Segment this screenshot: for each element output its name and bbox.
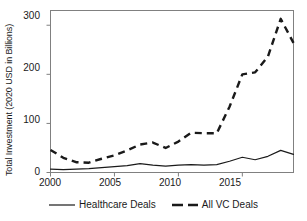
series-line-all-vc-deals xyxy=(51,19,294,163)
legend-label-healthcare-deals: Healthcare Deals xyxy=(79,199,156,210)
legend-swatch-dashed xyxy=(172,201,198,209)
plot-area xyxy=(0,0,307,221)
chart-container: Total Investment (2020 USD in Billions) … xyxy=(0,0,307,221)
series-line-healthcare-deals xyxy=(51,150,294,169)
y-tick-marks xyxy=(47,25,51,172)
legend-entry-healthcare-deals: Healthcare Deals xyxy=(49,199,156,210)
plot-frame xyxy=(51,11,294,173)
chart-legend: Healthcare Deals All VC Deals xyxy=(0,199,307,210)
legend-label-all-vc-deals: All VC Deals xyxy=(202,199,258,210)
legend-swatch-solid xyxy=(49,201,75,209)
x-tick-marks xyxy=(51,173,243,177)
legend-entry-all-vc-deals: All VC Deals xyxy=(172,199,258,210)
